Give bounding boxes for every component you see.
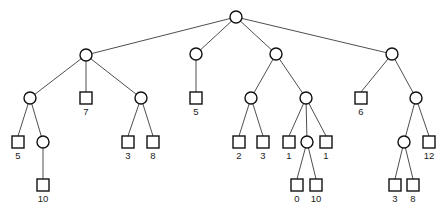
terminal-square [320,136,332,148]
terminal-square [291,179,303,191]
terminal-square [80,92,92,104]
terminal-square [389,179,401,191]
terminal-square [233,136,245,148]
decision-node [37,136,49,148]
tree-edge [30,55,86,98]
terminal-node: 6 [355,92,367,117]
terminal-node: 12 [423,136,435,161]
terminal-node: 1 [283,136,295,161]
tree-edge [30,98,43,142]
terminal-value-label: 3 [392,193,397,204]
terminal-value-label: 7 [83,106,88,117]
terminal-value-label: 8 [410,193,415,204]
decision-node [398,136,410,148]
terminal-node: 8 [407,179,419,204]
terminal-square [407,179,419,191]
terminal-node: 8 [147,136,159,161]
terminal-value-label: 6 [358,106,363,117]
terminal-value-label: 10 [38,193,49,204]
decision-node [410,92,422,104]
decision-node [190,48,202,60]
terminal-node: 2 [233,136,245,161]
terminal-node: 5 [190,92,202,117]
decision-node [24,92,36,104]
decision-node [270,48,282,60]
tree-edge [251,54,276,98]
tree-nodes: 7565382311121001038 [12,11,435,204]
terminal-node: 1 [320,136,332,161]
terminal-value-label: 1 [323,150,328,161]
terminal-square [12,136,24,148]
terminal-value-label: 1 [286,150,291,161]
terminal-node: 7 [80,92,92,117]
terminal-node: 0 [291,179,303,204]
terminal-value-label: 8 [150,150,155,161]
terminal-node: 10 [37,179,49,204]
decision-node [300,92,312,104]
tree-edge [86,17,236,55]
tree-edge [404,98,416,142]
terminal-square [37,179,49,191]
decision-node [245,92,257,104]
terminal-square [257,136,269,148]
terminal-value-label: 12 [424,150,435,161]
game-tree-diagram: 7565382311121001038 [0,0,442,210]
terminal-node: 3 [257,136,269,161]
decision-node [135,92,147,104]
terminal-value-label: 0 [294,193,299,204]
root-node [230,11,242,23]
decision-node [301,136,313,148]
tree-edge [361,54,392,92]
tree-edge [392,54,416,98]
terminal-node: 3 [122,136,134,161]
terminal-square [190,92,202,104]
tree-edge [196,17,236,54]
terminal-node: 5 [12,136,24,161]
terminal-value-label: 5 [193,106,198,117]
decision-node [386,48,398,60]
terminal-value-label: 10 [311,193,322,204]
terminal-square [122,136,134,148]
terminal-value-label: 5 [15,150,20,161]
terminal-node: 3 [389,179,401,204]
tree-edge [276,54,306,98]
terminal-square [283,136,295,148]
tree-edge [236,17,392,54]
terminal-square [310,179,322,191]
terminal-value-label: 2 [236,150,241,161]
tree-edge [236,17,276,54]
terminal-square [423,136,435,148]
decision-node [80,49,92,61]
terminal-square [355,92,367,104]
terminal-value-label: 3 [260,150,265,161]
tree-edge [86,55,141,98]
terminal-node: 10 [310,179,322,204]
terminal-value-label: 3 [125,150,130,161]
terminal-square [147,136,159,148]
